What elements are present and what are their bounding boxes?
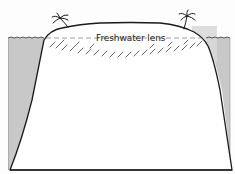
palm-tree-left-icon — [52, 13, 68, 27]
diagram-canvas — [0, 0, 235, 174]
water-surface-left — [8, 37, 44, 38]
freshwater-lens-label: Freshwater lens — [96, 33, 165, 43]
island-diagram: Freshwater lens — [0, 0, 235, 174]
